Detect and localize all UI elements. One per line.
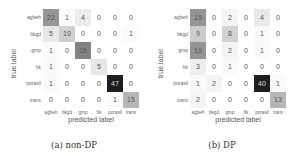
matrix-cell: 0 [75, 26, 91, 43]
matrix-cell: 1 [43, 59, 59, 76]
matrix-cell: 8 [222, 26, 238, 43]
x-tick-label: trans [270, 110, 286, 115]
matrix-cell: 0 [107, 59, 123, 76]
matrix-cell: 26 [75, 42, 91, 59]
matrix-cell: 0 [270, 42, 286, 59]
matrix-cell: 1 [123, 26, 139, 43]
matrix-cell: 0 [75, 59, 91, 76]
matrix-cell: 0 [91, 92, 107, 109]
matrix-cell: 40 [254, 75, 270, 92]
x-tick-labels: agbehbkgdgmphkporasiltrans [190, 110, 286, 115]
matrix-cell: 0 [270, 9, 286, 26]
matrix-cell: 0 [270, 26, 286, 43]
matrix-cell: 0 [75, 92, 91, 109]
confusion-matrix-dp: true label agbehbkgdgmphkporasiltrans 19… [148, 0, 296, 166]
y-tick-labels: agbehbkgdgmphkporasiltrans [173, 9, 188, 108]
caption: (a) non-DP [0, 140, 148, 150]
x-tick-label: agbeh [43, 110, 59, 115]
matrix-cell: 0 [75, 75, 91, 92]
x-tick-label: porasil [107, 110, 123, 115]
matrix-cell: 2 [206, 75, 222, 92]
matrix-cell: 0 [91, 42, 107, 59]
matrix-cell: 1 [59, 9, 75, 26]
y-tick-label: hk [183, 59, 188, 76]
x-axis-title: predicted label [43, 116, 139, 123]
x-axis-title: predicted label [190, 116, 286, 123]
y-tick-label: trans [177, 92, 188, 109]
matrix-cell: 2 [222, 42, 238, 59]
y-axis-title: true label [10, 39, 17, 89]
matrix-cell: 0 [222, 92, 238, 109]
matrix-cell: 0 [206, 59, 222, 76]
x-tick-label: gmp [75, 110, 91, 115]
matrix-cell: 2 [190, 92, 206, 109]
matrix-cell: 0 [238, 75, 254, 92]
matrix-cell: 0 [206, 42, 222, 59]
y-tick-label: bkgd [30, 26, 41, 43]
matrix-cell: 0 [123, 59, 139, 76]
matrix-cell: 0 [254, 59, 270, 76]
matrix-cell: 1 [222, 59, 238, 76]
matrix-cell: 0 [123, 42, 139, 59]
matrix-cell: 0 [238, 92, 254, 109]
x-tick-label: hk [238, 110, 254, 115]
matrix-cell: 0 [91, 26, 107, 43]
matrix-cell: 0 [43, 92, 59, 109]
matrix-cell: 5 [91, 59, 107, 76]
x-tick-label: gmp [222, 110, 238, 115]
matrix-cell: 0 [107, 9, 123, 26]
y-tick-label: bkgd [177, 26, 188, 43]
matrix-cell: 3 [190, 59, 206, 76]
caption: (b) DP [148, 140, 296, 150]
x-tick-label: trans [123, 110, 139, 115]
matrix-grid: 1902040908010190201030100012004012000013 [190, 9, 286, 108]
matrix-cell: 19 [190, 9, 206, 26]
matrix-cell: 0 [107, 26, 123, 43]
matrix-cell: 4 [254, 9, 270, 26]
matrix-cell: 2 [222, 9, 238, 26]
matrix-cell: 0 [123, 9, 139, 26]
matrix-cell: 5 [43, 26, 59, 43]
matrix-cell: 0 [59, 75, 75, 92]
matrix-cell: 47 [107, 75, 123, 92]
matrix-cell: 0 [91, 75, 107, 92]
matrix-cell: 0 [270, 59, 286, 76]
x-tick-labels: agbehbkgdgmphkporasiltrans [43, 110, 139, 115]
matrix-cell: 4 [75, 9, 91, 26]
x-tick-label: porasil [254, 110, 270, 115]
matrix-cell: 0 [91, 9, 107, 26]
matrix-cell: 0 [238, 42, 254, 59]
matrix-cell: 10 [59, 26, 75, 43]
y-tick-label: hk [36, 59, 41, 76]
y-tick-label: agbeh [174, 9, 188, 26]
matrix-cell: 0 [59, 42, 75, 59]
matrix-cell: 0 [206, 92, 222, 109]
matrix-cell: 1 [43, 75, 59, 92]
matrix-cell: 0 [238, 9, 254, 26]
matrix-grid: 2214000510000110260001005001000470000011… [43, 9, 139, 108]
matrix-cell: 0 [123, 75, 139, 92]
matrix-cell: 0 [222, 75, 238, 92]
matrix-cell: 1 [270, 75, 286, 92]
matrix-cell: 0 [254, 92, 270, 109]
matrix-cell: 22 [43, 9, 59, 26]
y-axis-title: true label [157, 39, 164, 89]
matrix-cell: 0 [206, 26, 222, 43]
y-tick-label: trans [30, 92, 41, 109]
y-tick-label: agbeh [27, 9, 41, 26]
matrix-cell: 0 [59, 92, 75, 109]
y-tick-label: porasil [173, 75, 188, 92]
y-tick-label: porasil [26, 75, 41, 92]
y-tick-labels: agbehbkgdgmphkporasiltrans [26, 9, 41, 108]
matrix-cell: 15 [123, 92, 139, 109]
confusion-matrix-non-dp: true label agbehbkgdgmphkporasiltrans 22… [0, 0, 148, 166]
matrix-cell: 1 [43, 42, 59, 59]
x-tick-label: bkgd [59, 110, 75, 115]
matrix-cell: 19 [190, 42, 206, 59]
matrix-cell: 1 [254, 42, 270, 59]
matrix-cell: 0 [107, 42, 123, 59]
x-tick-label: agbeh [190, 110, 206, 115]
matrix-cell: 1 [190, 75, 206, 92]
x-tick-label: bkgd [206, 110, 222, 115]
matrix-cell: 0 [238, 59, 254, 76]
